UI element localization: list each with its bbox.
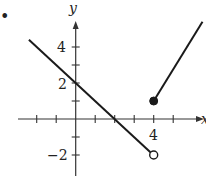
y-tick-label-neg2: −2: [47, 147, 68, 163]
y-tick-label-4: 4: [57, 39, 66, 55]
y-axis-arrow-icon: [73, 21, 79, 29]
open-endpoint: [150, 151, 158, 159]
y-tick-label-2: 2: [58, 76, 67, 92]
y-axis-label: y: [68, 0, 78, 16]
x-axis-label: x: [201, 111, 206, 127]
piecewise-graph: • y x 4 2 −2 4: [0, 0, 206, 182]
axes: [18, 21, 204, 176]
x-tick-label-4: 4: [149, 127, 158, 143]
right-line-segment: [154, 22, 203, 101]
left-line-segment: [29, 40, 150, 153]
bullet-marker: •: [0, 7, 9, 26]
closed-endpoint: [150, 97, 158, 105]
